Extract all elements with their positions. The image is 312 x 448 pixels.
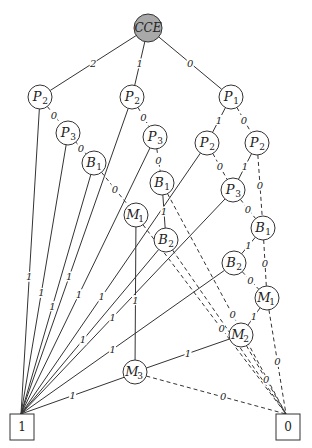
node-label: B	[153, 175, 164, 190]
node-subscript: 2	[236, 262, 242, 272]
node-b2m: B2	[154, 228, 178, 252]
node-m2: M2	[229, 323, 253, 347]
edge-label: 1	[132, 295, 138, 306]
node-subscript: 2	[42, 96, 48, 106]
edge-label: 1	[66, 271, 72, 282]
node-subscript: 2	[134, 96, 140, 106]
node-b1m: B1	[150, 171, 174, 195]
edge-label: 0	[247, 275, 254, 286]
terminal-label: 0	[284, 420, 292, 434]
nodes-layer: CCEP2P2P1P3P3P2P2B1B1P3M1B1B2B2M1M2M310	[10, 14, 300, 440]
edge-label: 1	[110, 312, 116, 323]
node-subscript: 1	[265, 227, 271, 237]
node-subscript: 3	[137, 371, 143, 381]
edge-label: 0	[218, 323, 225, 334]
edge-label: 0	[263, 374, 270, 385]
root-node-cce: CCE	[134, 14, 162, 42]
edge-label: 0	[78, 143, 85, 154]
node-p3r: P3	[221, 178, 245, 202]
edge-label: 1	[80, 334, 86, 345]
edge-P2a-T1	[21, 153, 200, 414]
node-subscript: 1	[138, 214, 144, 224]
terminal-0: 0	[276, 414, 300, 440]
terminal-1: 1	[10, 414, 34, 440]
edge-label: 0	[155, 155, 162, 166]
terminal-label: 1	[18, 420, 26, 434]
edges-layer	[21, 36, 286, 414]
edge-label: 1	[216, 115, 222, 126]
edge-label: 0	[229, 309, 236, 320]
node-subscript: 2	[209, 142, 215, 152]
node-label: B	[157, 232, 168, 247]
node-m1r: M1	[255, 286, 279, 310]
edge-label: 0	[257, 180, 264, 191]
node-p3m: P3	[143, 125, 167, 149]
node-m3: M3	[123, 360, 147, 384]
node-label: P	[32, 89, 42, 104]
edge-label: 1	[99, 291, 105, 302]
node-label: P	[225, 182, 235, 197]
node-label: P	[199, 135, 209, 150]
edge-label: 2	[89, 58, 96, 69]
node-subscript: 2	[168, 239, 174, 249]
node-label: P	[124, 89, 134, 104]
edge-label: 1	[76, 289, 82, 300]
edge-label: 1	[161, 206, 167, 217]
root-label: CCE	[134, 21, 161, 35]
node-subscript: 2	[243, 334, 249, 344]
node-label: B	[85, 155, 96, 170]
node-subscript: 1	[233, 96, 239, 106]
node-subscript: 1	[96, 162, 102, 172]
edge-label: 0	[262, 258, 269, 269]
node-subscript: 3	[235, 189, 241, 199]
edge-label: 1	[185, 348, 191, 359]
edge-label: 1	[137, 58, 143, 69]
node-label: P	[223, 89, 233, 104]
edge-label: 1	[69, 390, 75, 401]
node-p1: P1	[219, 85, 243, 109]
node-p2b: P2	[245, 131, 269, 155]
edge-label: 1	[26, 271, 32, 282]
node-b2r: B2	[222, 251, 246, 275]
edge-label: 1	[38, 287, 44, 298]
edge-label: 0	[187, 58, 194, 69]
edge-label: 1	[49, 301, 55, 312]
node-label: P	[60, 125, 70, 140]
node-b1r: B1	[251, 216, 275, 240]
edge-label: 0	[112, 184, 119, 195]
node-subscript: 3	[157, 136, 163, 146]
edge-label: 1	[242, 161, 248, 172]
edge-M1L-T0	[143, 225, 286, 414]
edge-label: 0	[220, 391, 227, 402]
node-subscript: 1	[164, 182, 170, 192]
node-p2m: P2	[120, 85, 144, 109]
node-subscript: 1	[269, 297, 275, 307]
node-subscript: 3	[70, 132, 76, 142]
node-label: P	[147, 129, 157, 144]
edge-label: 0	[241, 115, 248, 126]
decision-diagram: 2101010101010101010101010101010101010 CC…	[0, 0, 312, 448]
node-m1l: M1	[124, 203, 148, 227]
edge-label: 0	[274, 356, 281, 367]
node-subscript: 2	[259, 142, 265, 152]
node-label: B	[225, 255, 236, 270]
edge-label: 1	[109, 344, 115, 355]
edge-label: 0	[140, 112, 147, 123]
node-label: B	[254, 220, 265, 235]
node-p2l: P2	[28, 85, 52, 109]
edge-label: 1	[245, 240, 251, 251]
node-b1l: B1	[82, 151, 106, 175]
node-p2a: P2	[195, 131, 219, 155]
edge-label: 0	[245, 204, 252, 215]
edge-label: 0	[217, 161, 224, 172]
node-label: P	[249, 135, 259, 150]
edge-label: 0	[51, 110, 58, 121]
edge-label: 1	[251, 311, 257, 322]
node-p3l: P3	[56, 121, 80, 145]
